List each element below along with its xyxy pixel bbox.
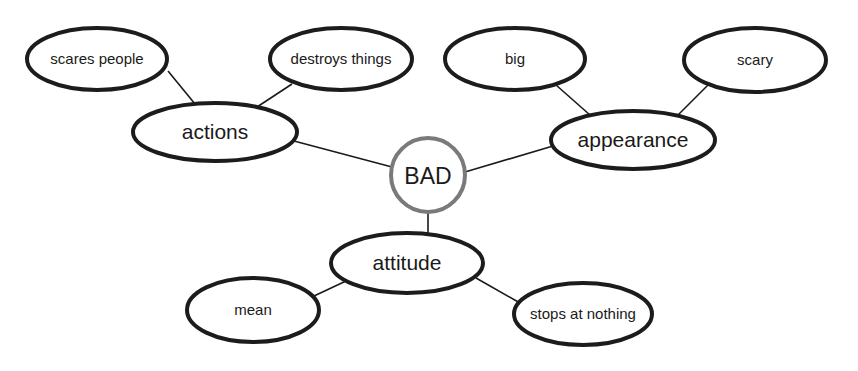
category-node-attitude: attitude xyxy=(331,233,483,293)
detail-label: destroys things xyxy=(291,50,392,67)
detail-node-scary: scary xyxy=(684,28,826,92)
detail-label: stops at nothing xyxy=(530,305,636,322)
detail-label: scary xyxy=(737,51,773,68)
concept-web-diagram: BAD actions appearance attitude scares p… xyxy=(0,0,858,371)
detail-node-mean: mean xyxy=(187,278,319,342)
category-node-actions: actions xyxy=(133,103,297,161)
edge-attitude-stops-at-nothing xyxy=(476,278,520,303)
detail-label: big xyxy=(505,50,525,67)
detail-node-stops-at-nothing: stops at nothing xyxy=(514,283,652,345)
detail-node-destroys-things: destroys things xyxy=(270,28,412,90)
edge-actions-scares-people xyxy=(168,71,195,104)
category-label: appearance xyxy=(578,128,689,151)
edge-bad-appearance xyxy=(465,146,553,172)
edge-appearance-scary xyxy=(678,85,708,115)
detail-node-scares-people: scares people xyxy=(27,28,167,90)
center-label: BAD xyxy=(404,163,451,189)
category-node-appearance: appearance xyxy=(551,111,715,169)
category-label: actions xyxy=(182,120,249,143)
category-label: attitude xyxy=(373,251,442,274)
edge-bad-actions xyxy=(294,141,392,167)
edge-appearance-big xyxy=(556,85,590,115)
detail-label: scares people xyxy=(50,50,143,67)
detail-label: mean xyxy=(234,301,272,318)
edge-attitude-mean xyxy=(314,281,346,296)
edge-actions-destroys-things xyxy=(257,84,292,107)
center-node-bad: BAD xyxy=(391,138,465,212)
detail-node-big: big xyxy=(445,28,585,90)
